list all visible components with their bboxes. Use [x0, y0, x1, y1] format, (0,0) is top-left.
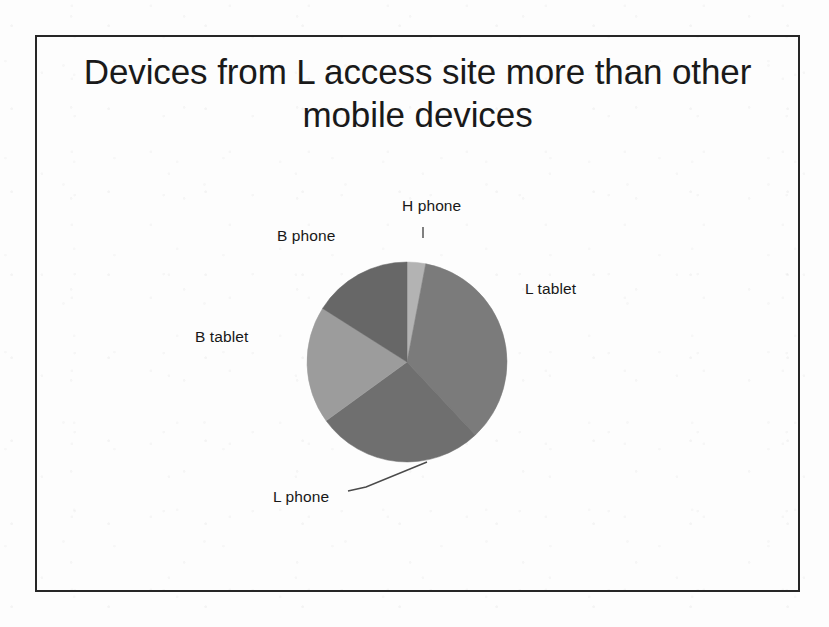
slide-canvas: Devices from L access site more than oth… — [0, 0, 829, 627]
leader-line-l-phone — [348, 462, 427, 491]
pie-chart-graphic — [180, 175, 740, 545]
pie-label-b-phone: B phone — [277, 227, 335, 245]
pie-label-h-phone: H phone — [402, 197, 461, 215]
pie-label-l-tablet: L tablet — [525, 280, 576, 298]
pie-label-b-tablet: B tablet — [195, 328, 248, 346]
pie-chart: H phone B phone L tablet B tablet L phon… — [180, 175, 740, 545]
chart-title: Devices from L access site more than oth… — [70, 50, 765, 137]
pie-label-l-phone: L phone — [273, 488, 329, 506]
